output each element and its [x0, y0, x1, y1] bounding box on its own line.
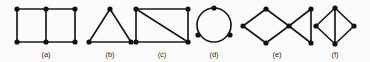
graph-panel-d [195, 5, 232, 42]
graph-edge [243, 9, 266, 26]
panel-label-a: (a) [41, 50, 50, 59]
panel-label-c: (c) [158, 50, 167, 59]
graph-vertex [351, 23, 356, 28]
graph-edge [89, 9, 110, 42]
graph-panel-c [133, 6, 190, 44]
panel-label-d: (d) [209, 50, 218, 59]
graph-figure: (a)(b)(c)(d)(e)(f) [0, 0, 370, 62]
graph-edge [110, 9, 131, 42]
graph-edge [243, 26, 266, 43]
graph-vertex [133, 39, 138, 44]
graph-vertex [263, 6, 268, 11]
graph-edge [335, 8, 354, 26]
panel-label-b: (b) [105, 50, 114, 59]
graph-panel-f [313, 5, 356, 46]
graph-vertex [185, 39, 190, 44]
graph-edge [266, 9, 289, 26]
graph-edge-arc [197, 8, 231, 42]
panel-label-e: (e) [272, 50, 281, 59]
graph-vertex [286, 23, 291, 28]
graph-vertex [308, 6, 313, 11]
graph-vertex [14, 6, 19, 11]
graph-vertex [107, 6, 112, 11]
graph-vertex [211, 5, 216, 10]
graph-edge [266, 26, 289, 43]
graph-edge [136, 9, 188, 42]
graph-vertex [332, 41, 337, 46]
graph-panel-e [240, 6, 313, 45]
graph-vertex [313, 23, 318, 28]
graph-vertex [86, 39, 91, 44]
graph-vertex [72, 39, 77, 44]
graph-vertex [128, 39, 133, 44]
graph-vertex [332, 5, 337, 10]
graph-vertex [43, 39, 48, 44]
graph-edge [316, 26, 335, 44]
graph-edge [289, 9, 311, 26]
graph-vertex [195, 32, 200, 37]
graph-vertex [185, 6, 190, 11]
graph-vertex [227, 32, 232, 37]
graph-vertex [240, 23, 245, 28]
graph-vertex [14, 39, 19, 44]
panel-label-f: (f) [331, 50, 338, 59]
graph-vertex [43, 6, 48, 11]
graph-panel-b [86, 6, 133, 44]
graph-panel-a [14, 6, 77, 44]
graph-edge [289, 26, 311, 43]
graph-edge [316, 8, 335, 26]
graph-diagram-canvas [0, 0, 370, 62]
graph-vertex [308, 40, 313, 45]
graph-vertex [263, 40, 268, 45]
graph-edge [335, 26, 354, 44]
graph-vertex [133, 6, 138, 11]
graph-vertex [72, 6, 77, 11]
